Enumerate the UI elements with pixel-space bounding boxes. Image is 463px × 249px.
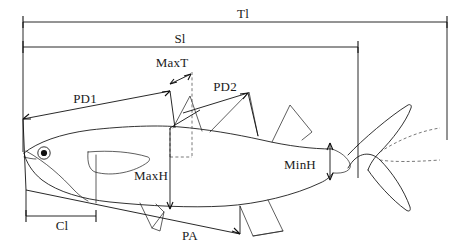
caudal-fin-lower-lobe [348, 154, 410, 211]
label-max-height: MaxH [134, 168, 168, 183]
label-standard-length: Sl [174, 31, 185, 46]
measure-pd2 [170, 93, 258, 136]
adipose-fin [272, 105, 312, 142]
label-preanal: PA [182, 228, 198, 243]
first-dorsal-fin [173, 96, 202, 131]
anal-fin-ray [253, 231, 283, 236]
measure-pd2-arrowhead-right [240, 93, 248, 99]
fish-morphometrics-diagram: Tl Sl MaxT PD1 PD2 MaxH MinH Cl PA [0, 0, 463, 249]
caudal-fin-upper-lobe [348, 105, 411, 155]
measure-maxt-arrow [170, 74, 191, 84]
anal-fin [240, 200, 283, 236]
measure-pd1-right-strut [170, 91, 175, 128]
caudal-fin-dashed-lower [380, 160, 440, 162]
label-cephalic-length: Cl [56, 218, 69, 233]
caudal-peduncle-curve [332, 149, 350, 173]
fish-diagram-canvas: Tl Sl MaxT PD1 PD2 MaxH MinH Cl PA [0, 0, 463, 249]
label-max-thickness: MaxT [156, 55, 189, 70]
labels-group: Tl Sl MaxT PD1 PD2 MaxH MinH Cl PA [56, 6, 316, 243]
fish-dorsal-outline [24, 126, 332, 153]
fish-body-group [24, 92, 440, 236]
label-predorsal-2: PD2 [213, 79, 237, 94]
measure-pd1-left-strut [23, 119, 26, 190]
label-predorsal-1: PD1 [73, 91, 97, 106]
measure-pd1-arrowhead-right [162, 91, 170, 96]
operculum-curve [26, 151, 88, 201]
caudal-fin-dashed-extension [380, 128, 440, 152]
label-min-height: MinH [284, 157, 316, 172]
measure-pd2-right-strut [248, 93, 258, 136]
measure-minh [327, 143, 333, 180]
second-dorsal-fin [210, 92, 258, 136]
measurement-lines-group [23, 16, 447, 234]
label-total-length: Tl [237, 6, 249, 21]
fish-eye-pupil [41, 150, 47, 156]
